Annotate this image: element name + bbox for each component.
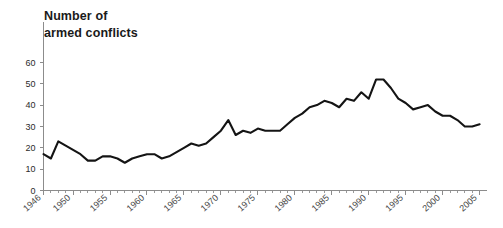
x-tick-label-1946: 1946 xyxy=(21,193,43,214)
y-tick-label-40: 40 xyxy=(25,100,35,110)
x-tick-label-1980: 1980 xyxy=(273,193,295,214)
y-tick-label-20: 20 xyxy=(25,143,35,153)
data-series-group xyxy=(44,79,480,162)
y-tick-label-10: 10 xyxy=(25,164,35,174)
x-axis: 1946195019551960196519701975198019851990… xyxy=(21,191,487,214)
x-tick-label-1960: 1960 xyxy=(125,193,147,214)
y-tick-label-60: 60 xyxy=(25,58,35,68)
armed-conflicts-chart: Number of armed conflicts 0102030405060 … xyxy=(0,0,503,228)
x-tick-label-1975: 1975 xyxy=(236,193,258,214)
x-tick-label-2005: 2005 xyxy=(457,193,479,214)
series-line-armed-conflicts xyxy=(44,79,480,162)
x-tick-label-1950: 1950 xyxy=(51,193,73,214)
x-tick-label-1985: 1985 xyxy=(310,193,332,214)
y-tick-group: 0102030405060 xyxy=(25,58,43,196)
x-tick-group: 1946195019551960196519701975198019851990… xyxy=(21,191,479,214)
x-tick-label-1970: 1970 xyxy=(199,193,221,214)
x-tick-label-1990: 1990 xyxy=(346,193,368,214)
x-tick-label-2000: 2000 xyxy=(420,193,442,214)
y-tick-label-30: 30 xyxy=(25,122,35,132)
chart-plot-area: 0102030405060 19461950195519601965197019… xyxy=(0,0,503,228)
x-tick-label-1955: 1955 xyxy=(88,193,110,214)
x-tick-label-1965: 1965 xyxy=(162,193,184,214)
y-axis: 0102030405060 xyxy=(25,22,43,196)
y-tick-label-50: 50 xyxy=(25,79,35,89)
x-tick-label-1995: 1995 xyxy=(383,193,405,214)
